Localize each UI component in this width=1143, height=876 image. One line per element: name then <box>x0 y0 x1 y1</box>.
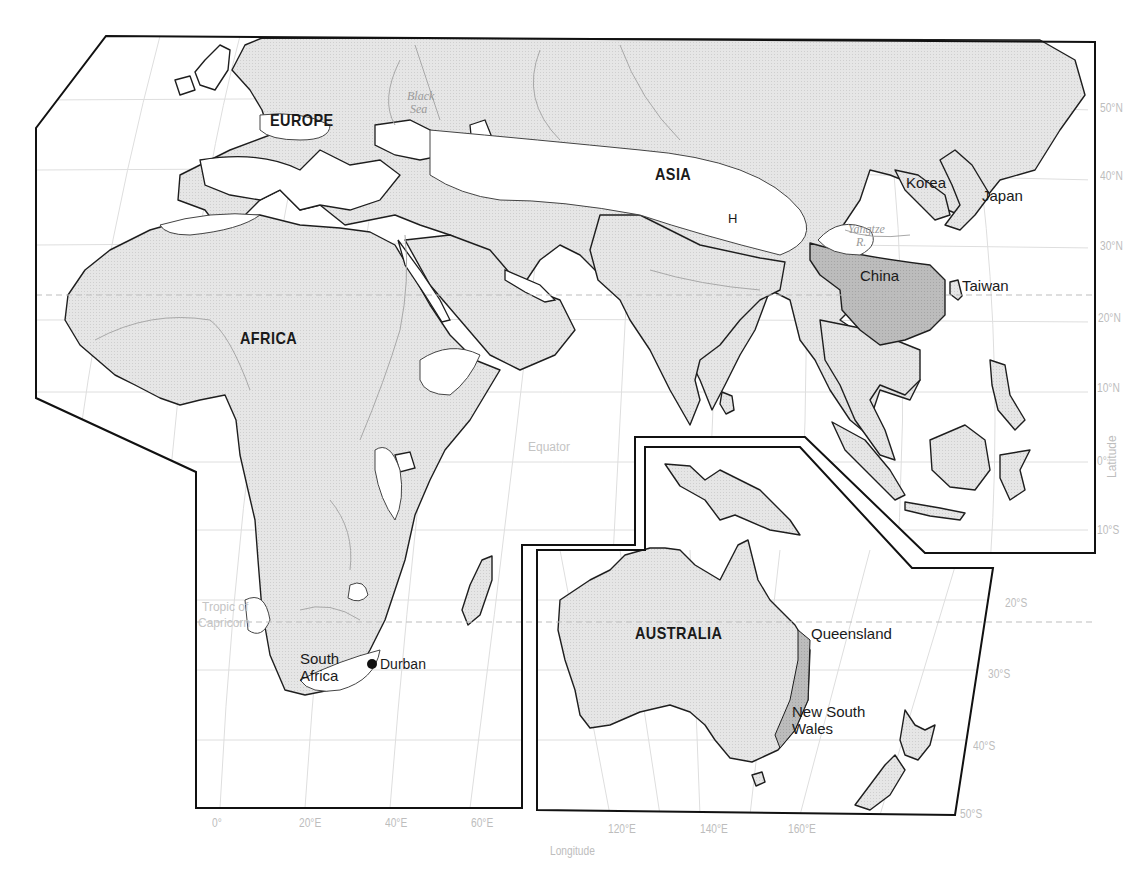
lon-tick-160e: 160°E <box>788 823 816 835</box>
region-label-australia: AUSTRALIA <box>635 625 722 642</box>
lat-tick-40s: 40°S <box>973 740 995 752</box>
lat-tick-10n: 10°N <box>1097 382 1120 394</box>
water-label-yangtze-2: R. <box>856 236 866 249</box>
lat-tick-50n: 50°N <box>1100 102 1123 114</box>
water-label-yangtze-1: Yangtze <box>848 223 885 236</box>
place-label-durban: Durban <box>380 657 426 671</box>
lat-tick-30n: 30°N <box>1100 240 1123 252</box>
lon-tick-140e: 140°E <box>700 823 728 835</box>
place-label-japan: Japan <box>982 188 1023 203</box>
lon-tick-60e: 60°E <box>471 817 493 829</box>
lon-tick-0: 0° <box>212 817 222 829</box>
lat-tick-30s: 30°S <box>988 668 1010 680</box>
place-label-south-africa-1: South <box>300 651 339 666</box>
madagascar-landmass <box>462 556 492 625</box>
tropic-label-1: Tropic of <box>202 600 248 614</box>
lat-tick-10s: 10°S <box>1097 524 1119 536</box>
region-label-africa: AFRICA <box>240 330 297 347</box>
lon-tick-40e: 40°E <box>385 817 407 829</box>
lat-tick-20n: 20°N <box>1098 312 1121 324</box>
water-label-black-sea-1: Black <box>407 90 434 103</box>
place-label-nsw-2: Wales <box>792 721 833 736</box>
longitude-axis-title: Longitude <box>550 845 595 857</box>
place-label-south-africa-2: Africa <box>300 668 338 683</box>
lat-tick-20s: 20°S <box>1005 597 1027 609</box>
region-label-europe: EUROPE <box>270 112 334 129</box>
lat-tick-50s: 50°S <box>960 808 982 820</box>
equator-label: Equator <box>528 440 570 454</box>
new-guinea-landmass <box>665 464 800 535</box>
place-label-queensland: Queensland <box>811 626 892 641</box>
place-label-h-marker: H <box>728 212 737 225</box>
place-label-korea: Korea <box>906 175 946 190</box>
map-canvas <box>0 0 1143 876</box>
tropic-label-2: Capricorn <box>198 616 250 630</box>
water-label-black-sea-2: Sea <box>410 103 427 116</box>
place-label-taiwan: Taiwan <box>962 278 1009 293</box>
lon-tick-20e: 20°E <box>299 817 321 829</box>
lon-tick-120e: 120°E <box>608 823 636 835</box>
latitude-axis-title: Latitude <box>1106 435 1118 478</box>
lat-tick-40n: 40°N <box>1100 170 1123 182</box>
new-zealand-landmass <box>900 710 935 760</box>
durban-marker <box>367 659 377 669</box>
region-label-asia: ASIA <box>655 166 691 183</box>
place-label-nsw-1: New South <box>792 704 865 719</box>
place-label-china: China <box>860 268 899 283</box>
australia-landmass <box>558 540 810 762</box>
